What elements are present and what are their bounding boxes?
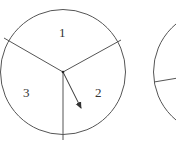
spinner-2-circle (154, 10, 177, 135)
sector-label-2: 2 (95, 85, 102, 100)
divider-top-right (63, 40, 121, 72)
divider-top-left (4, 38, 63, 72)
spinner-1: 1 2 3 (1, 10, 126, 141)
sector-label-1: 1 (59, 25, 66, 40)
sector-label-3: 3 (23, 85, 30, 100)
spinner-2 (154, 10, 177, 135)
pointer-arrow (63, 72, 81, 108)
spinner-2-divider (154, 78, 176, 82)
spinner-diagram: 1 2 3 (0, 0, 176, 145)
